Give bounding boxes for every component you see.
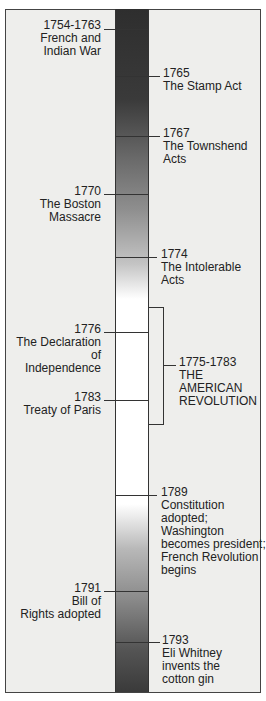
tick-1776 [104, 332, 149, 333]
event-1770: 1770The BostonMassacre [40, 185, 101, 224]
revolution-bracket [149, 307, 164, 425]
event-1767: 1767The TownshendActs [163, 127, 248, 166]
event-1774: 1774The IntolerableActs [161, 248, 241, 287]
event-1791: 1791Bill ofRights adopted [20, 582, 101, 621]
timeline-bar [115, 9, 149, 692]
tick-1774 [115, 257, 157, 258]
event-1789: 1789Constitutionadopted;Washingtonbecome… [161, 486, 266, 577]
event-1765: 1765The Stamp Act [163, 67, 242, 93]
tick-1789 [115, 495, 157, 496]
period-revolution: 1775-1783THEAMERICANREVOLUTION [179, 356, 257, 408]
bracket-tick [164, 365, 176, 366]
tick-1754 [104, 29, 149, 30]
tick-1783 [104, 400, 149, 401]
tick-1791 [104, 591, 149, 592]
tick-1765 [115, 76, 160, 77]
tick-1767 [115, 136, 160, 137]
event-1754: 1754-1763French andIndian War [40, 19, 101, 58]
tick-1793 [115, 642, 160, 643]
event-1776: 1776The DeclarationofIndependence [16, 323, 101, 375]
tick-1770 [104, 194, 149, 195]
event-1793: 1793Eli Whitneyinvents thecotton gin [162, 634, 222, 686]
event-1783: 1783Treaty of Paris [23, 391, 101, 417]
